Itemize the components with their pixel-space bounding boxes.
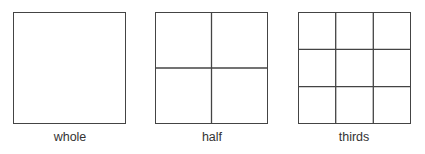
- label-half: half: [142, 130, 282, 144]
- grid-lines-thirds: [298, 12, 411, 124]
- square-half: [155, 12, 268, 124]
- label-whole: whole: [0, 130, 140, 144]
- square-whole: [13, 12, 126, 124]
- label-thirds: thirds: [284, 130, 424, 144]
- square-thirds: [298, 12, 411, 124]
- grid-lines-half: [155, 12, 268, 124]
